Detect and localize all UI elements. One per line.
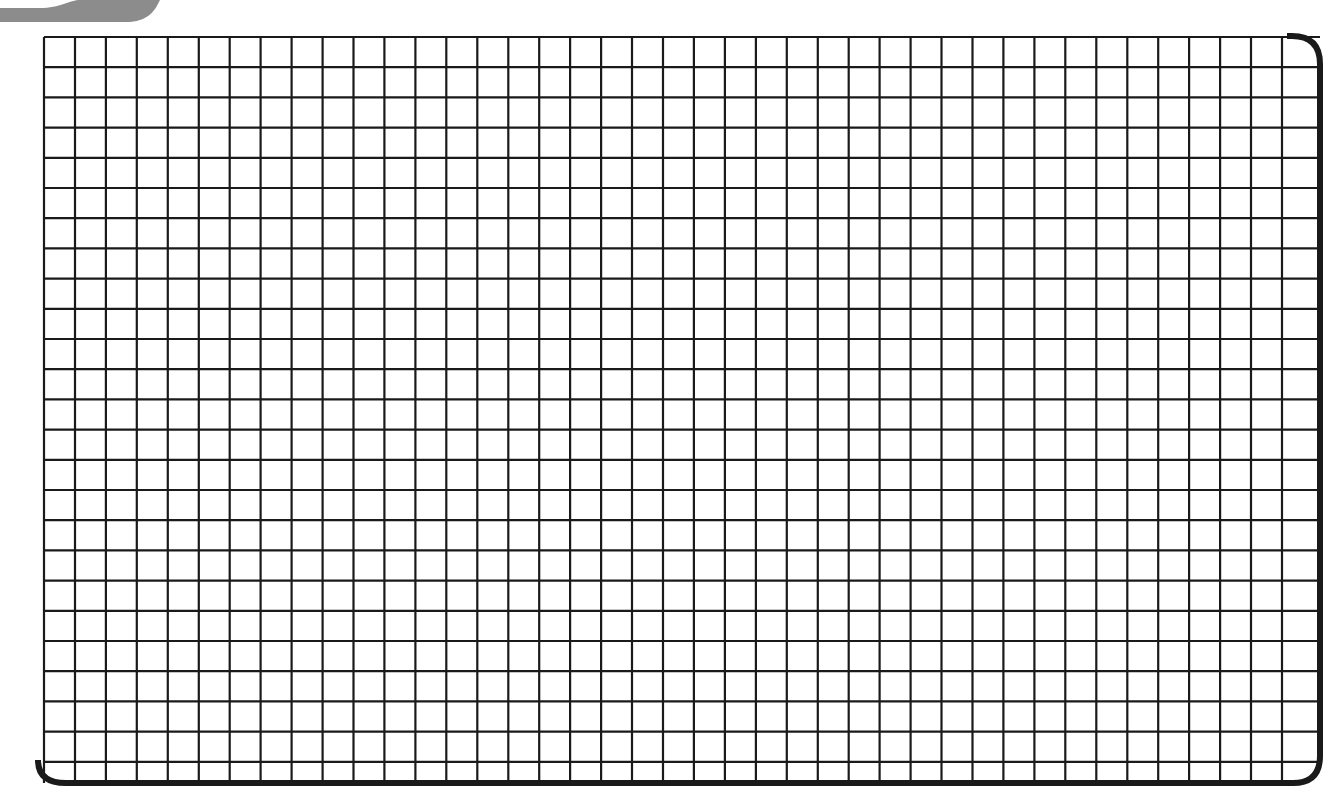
graph-paper-canvas (0, 0, 1343, 812)
grid (0, 0, 1343, 812)
